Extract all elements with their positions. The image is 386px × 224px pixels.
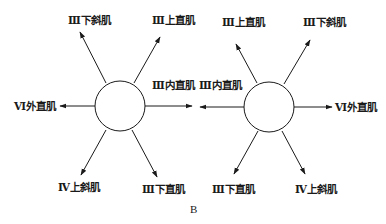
arrow-up-left (236, 44, 257, 83)
arrow-down-right (132, 130, 157, 177)
left-eye-diagram: Ⅲ下斜肌 Ⅲ上直肌 Ⅲ内直肌 Ⅵ外直肌 Ⅳ上斜肌 Ⅲ下直肌 (13, 14, 196, 195)
muscle-label: Ⅳ上斜肌 (58, 181, 101, 193)
muscle-label: Ⅲ下直肌 (142, 183, 186, 195)
muscle-label: Ⅲ上直肌 (152, 14, 196, 26)
muscle-label: Ⅲ上直肌 (222, 16, 266, 28)
arrow-down-left (234, 131, 258, 174)
muscle-label: Ⅲ内直肌 (152, 79, 196, 91)
muscle-label: Ⅵ外直肌 (13, 100, 57, 112)
eye-circle (244, 82, 294, 132)
arrow-up-right (134, 37, 160, 83)
muscle-label: Ⅳ上斜肌 (295, 183, 338, 195)
muscle-label: Ⅲ下斜肌 (68, 14, 112, 26)
arrow-down-left (81, 130, 106, 175)
muscle-label: Ⅲ下斜肌 (303, 16, 347, 28)
muscle-label: Ⅲ内直肌 (199, 79, 243, 91)
muscle-label: Ⅲ下直肌 (212, 183, 256, 195)
muscle-label: Ⅵ外直肌 (334, 101, 378, 113)
arrow-up-left (80, 32, 106, 83)
arrow-down-right (282, 131, 305, 174)
right-eye-diagram: Ⅲ上直肌 Ⅲ下斜肌 Ⅲ内直肌 Ⅵ外直肌 Ⅲ下直肌 Ⅳ上斜肌 (199, 16, 378, 195)
eye-muscle-diagram: Ⅲ下斜肌 Ⅲ上直肌 Ⅲ内直肌 Ⅵ外直肌 Ⅳ上斜肌 Ⅲ下直肌 Ⅲ上直肌 Ⅲ下斜肌 … (0, 0, 386, 224)
eye-circle (95, 81, 145, 131)
arrow-up-right (284, 40, 310, 84)
figure-label: B (190, 203, 197, 215)
